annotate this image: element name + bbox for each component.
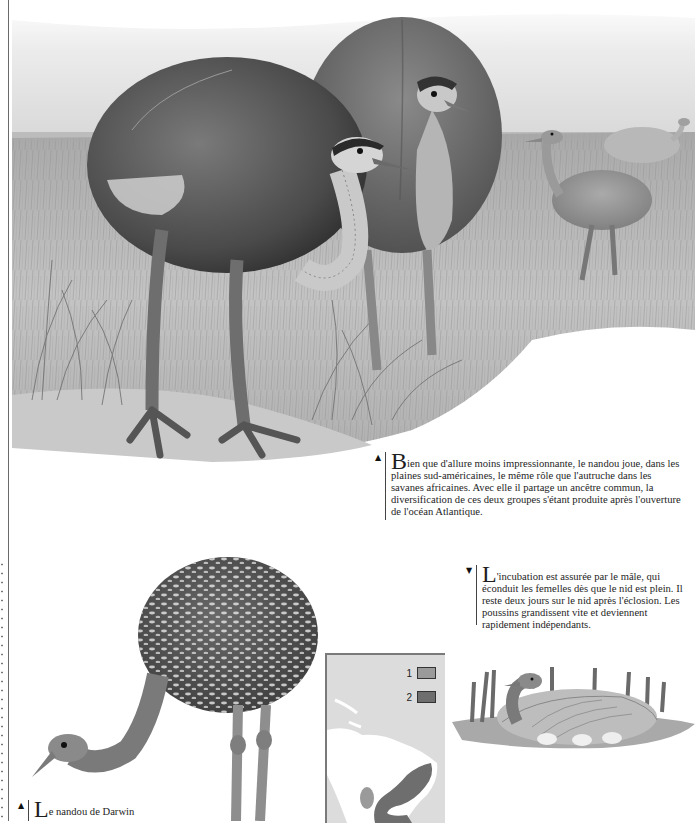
legend-swatch: [417, 691, 436, 703]
caption-text: L'incubation est assurée par le mâle, qu…: [482, 565, 692, 631]
triangle-down-icon: ▼: [466, 567, 472, 575]
nest-illustration: [452, 652, 695, 752]
distribution-map: 1 2: [325, 653, 445, 823]
legend-item-2: 2: [406, 691, 436, 703]
darwin-rhea-illustration: [28, 555, 328, 821]
margin-dots: [0, 560, 4, 821]
caption-rule: [476, 565, 477, 625]
caption-rule: [385, 452, 386, 520]
legend-swatch: [417, 667, 436, 679]
legend-item-1: 1: [406, 667, 436, 679]
triangle-up-icon: ▲: [18, 802, 24, 810]
caption-rule: [28, 800, 29, 821]
dropcap: L: [34, 796, 49, 822]
margin-rule: [8, 0, 9, 821]
caption-darwin-rhea: ▲ Le nandou de Darwin: [18, 800, 218, 821]
triangle-up-icon: ▲: [375, 454, 381, 462]
caption-text: Le nandou de Darwin: [34, 800, 134, 818]
caption-nest: ▼ L'incubation est assurée par le mâle, …: [466, 565, 695, 625]
caption-text: Bien que d'allure moins impressionnante,…: [391, 452, 686, 518]
main-scene-illustration: [12, 0, 695, 470]
caption-main-scene: ▲ Bien que d'allure moins impressionnant…: [375, 452, 695, 522]
